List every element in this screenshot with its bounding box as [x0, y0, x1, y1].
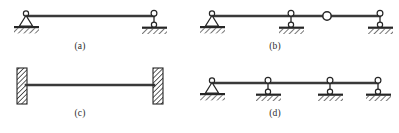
roller-support — [366, 77, 391, 101]
panel-d — [200, 77, 391, 101]
panel-caption-a: (a) — [50, 41, 110, 51]
pin-support — [14, 11, 39, 34]
panel-caption-c: (c) — [50, 108, 110, 118]
pin-support — [200, 78, 225, 100]
panel-c — [17, 68, 163, 104]
roller-support — [256, 77, 281, 101]
panel-caption-b: (b) — [245, 41, 305, 51]
internal-hinge — [323, 12, 331, 20]
roller-support — [279, 10, 304, 34]
pin-support — [200, 11, 225, 34]
fixed-support — [153, 68, 163, 104]
roller-support — [368, 10, 393, 34]
figure-container: (a) (b) (c) (d) — [0, 0, 399, 133]
roller-support — [142, 10, 167, 34]
panel-caption-d: (d) — [245, 108, 305, 118]
panel-a — [14, 10, 167, 34]
roller-support — [318, 77, 343, 101]
panel-b — [200, 10, 393, 34]
